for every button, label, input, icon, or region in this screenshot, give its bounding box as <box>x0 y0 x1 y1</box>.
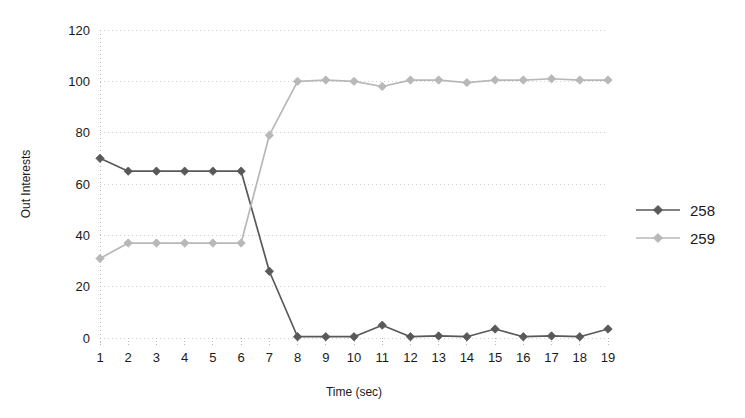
x-tick-label-13: 13 <box>431 350 445 365</box>
line-chart: 020406080100120 123456789101112131415161… <box>0 0 745 418</box>
x-tick-label-9: 9 <box>322 350 329 365</box>
y-tick-label-0: 0 <box>83 331 90 346</box>
x-tick-label-11: 11 <box>375 350 389 365</box>
x-tick-label-15: 15 <box>488 350 502 365</box>
x-tick-label-18: 18 <box>573 350 587 365</box>
chart-container: 020406080100120 123456789101112131415161… <box>0 0 745 418</box>
x-axis-title: Time (sec) <box>326 385 382 399</box>
y-tick-label-120: 120 <box>68 23 90 38</box>
x-tick-label-12: 12 <box>403 350 417 365</box>
x-tick-label-14: 14 <box>460 350 474 365</box>
legend-label-258: 258 <box>690 202 715 219</box>
x-tick-label-1: 1 <box>96 350 103 365</box>
x-tick-label-17: 17 <box>544 350 558 365</box>
x-tick-label-4: 4 <box>181 350 188 365</box>
x-tick-label-10: 10 <box>347 350 361 365</box>
y-tick-label-40: 40 <box>76 228 90 243</box>
chart-background <box>0 0 745 418</box>
y-axis-title: Out Interests <box>19 150 33 219</box>
x-tick-label-3: 3 <box>153 350 160 365</box>
x-tick-label-7: 7 <box>266 350 273 365</box>
x-tick-label-6: 6 <box>237 350 244 365</box>
y-tick-label-60: 60 <box>76 177 90 192</box>
x-tick-label-5: 5 <box>209 350 216 365</box>
x-tick-label-16: 16 <box>516 350 530 365</box>
y-tick-label-20: 20 <box>76 279 90 294</box>
legend-label-259: 259 <box>690 230 715 247</box>
x-tick-label-8: 8 <box>294 350 301 365</box>
y-tick-label-80: 80 <box>76 125 90 140</box>
y-tick-label-100: 100 <box>68 74 90 89</box>
x-tick-label-19: 19 <box>601 350 615 365</box>
x-tick-label-2: 2 <box>125 350 132 365</box>
